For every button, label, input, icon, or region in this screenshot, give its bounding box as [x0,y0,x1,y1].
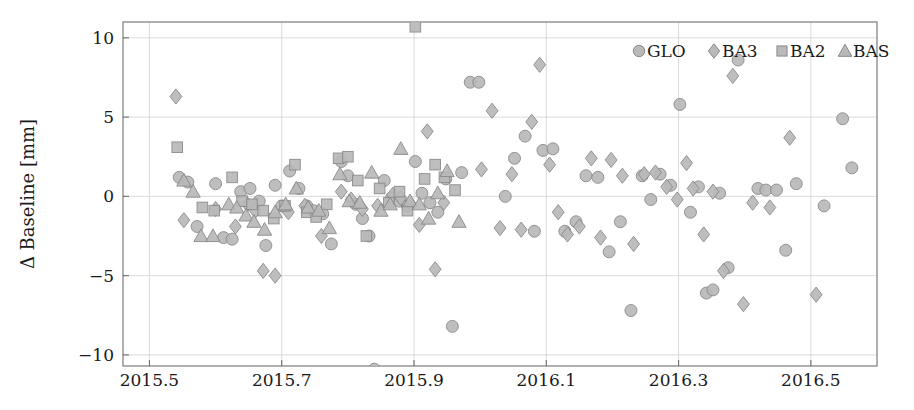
plot-area: 2015.52015.72015.92016.12016.32016.5 105… [0,0,914,410]
data-point [440,164,454,177]
data-point [322,221,336,234]
data-point [595,230,607,245]
y-axis-title-text: Δ Baseline [mm] [17,119,38,269]
data-point [178,213,190,228]
y-tick-label: 5 [103,107,114,127]
data-point [430,159,441,170]
data-point [681,155,693,170]
x-tick-label: 2015.5 [120,370,179,390]
data-point [526,114,538,129]
data-point [431,186,445,199]
data-point [486,103,498,118]
data-point [534,57,546,72]
data-point [227,172,238,183]
data-point [446,320,458,332]
data-point [197,202,208,213]
data-point [421,124,433,139]
legend-label-bas: BAS [853,41,889,61]
data-point [209,205,220,216]
data-point [837,113,849,125]
data-point [450,185,461,196]
data-point [790,178,802,190]
legend-marker-ba2 [777,46,787,56]
data-point [547,143,559,155]
data-point [368,363,380,375]
legend-label-ba3: BA3 [722,41,758,61]
data-point [592,171,604,183]
data-point [846,162,858,174]
x-tick-label: 2016.3 [649,370,708,390]
legend-marker-bas [838,44,852,56]
data-point [625,305,637,317]
data-points [170,21,858,375]
data-point [429,262,441,277]
data-point [727,68,739,83]
data-point [784,130,796,145]
series-ba3 [170,57,822,312]
legend-marker-glo [633,45,644,56]
data-point [770,184,782,196]
data-point [290,159,301,170]
data-point [544,157,556,172]
y-tick-label: −10 [78,345,114,365]
data-point [818,200,830,212]
y-tick-label: 0 [103,186,114,206]
data-point [456,167,468,179]
data-point [394,142,408,155]
data-point [614,216,626,228]
data-point [674,98,686,110]
legend-marker-ba3 [708,44,719,59]
data-point [258,205,269,216]
data-point [476,162,488,177]
data-point [685,206,697,218]
data-point [494,220,506,235]
y-tick-label: −5 [89,266,114,286]
data-point [473,76,485,88]
data-point [257,263,269,278]
data-point [210,178,222,190]
chart-legend: GLOBA3BA2BAS [633,41,889,61]
y-tick-label: 10 [92,28,114,48]
x-tick-label: 2016.5 [781,370,840,390]
data-point [519,130,531,142]
data-point [499,190,511,202]
data-point [747,195,759,210]
x-tick-label: 2015.7 [252,370,311,390]
y-axis-title: Δ Baseline [mm] [17,119,38,269]
data-point [528,225,540,237]
x-tick-label: 2015.9 [384,370,443,390]
data-point [707,284,719,296]
data-point [172,142,183,153]
data-point [410,21,421,32]
data-point [416,187,428,199]
data-point [605,152,617,167]
data-point [616,168,628,183]
data-point [810,287,822,302]
data-point [452,215,466,228]
legend-label-ba2: BA2 [790,41,826,61]
legend-label-glo: GLO [647,41,686,61]
x-tick-label: 2016.1 [517,370,576,390]
data-point [515,222,527,237]
data-point [603,246,615,258]
data-point [671,192,683,207]
data-point [645,194,657,206]
data-point [506,167,518,182]
data-point [170,89,182,104]
data-point [335,184,347,199]
data-point [361,231,372,242]
data-point [419,174,430,185]
data-point [764,200,776,215]
scatter-chart: 2015.52015.72015.92016.12016.32016.5 105… [0,0,914,410]
data-point [394,186,405,197]
x-tick-labels: 2015.52015.72015.92016.12016.32016.5 [120,370,841,390]
data-point [374,183,385,194]
data-point [585,151,597,166]
data-point [698,227,710,242]
data-point [409,156,421,168]
data-point [325,238,337,250]
data-point [321,199,332,210]
data-point [247,199,258,210]
data-point [269,179,281,191]
data-point [343,151,354,162]
